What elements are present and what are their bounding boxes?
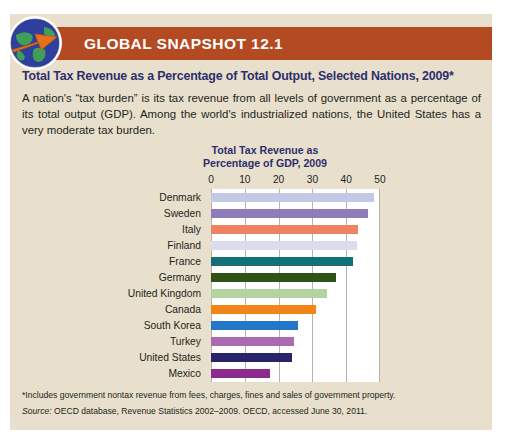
x-tick-label: 40 [341,174,352,185]
x-tick-label: 10 [239,174,250,185]
footnote-text: *Includes government nontax revenue from… [22,390,484,400]
category-label: United States [139,352,201,363]
x-tick-label: 0 [208,174,214,185]
x-tick-label: 20 [273,174,284,185]
category-label: South Korea [144,320,201,331]
bar [211,273,336,282]
snapshot-description: A nation's “tax burden” is its tax reven… [22,90,481,139]
globe-arrow-icon [4,13,66,73]
bar [211,193,374,202]
x-tick-label: 30 [307,174,318,185]
bar [211,305,316,314]
bar [211,289,327,298]
category-label: Denmark [159,192,201,203]
snapshot-header-title: GLOBAL SNAPSHOT 12.1 [84,35,283,53]
source-detail: OECD database, Revenue Statistics 2002–2… [52,406,368,416]
source-text: Source: OECD database, Revenue Statistic… [22,406,484,416]
bar [211,337,294,346]
bar [211,241,357,250]
category-label: Finland [167,240,201,251]
source-label: Source: [22,406,52,416]
category-label: Italy [182,224,201,235]
gridline [379,189,380,382]
gridline [312,189,313,382]
chart-title: Total Tax Revenue as Percentage of GDP, … [140,144,390,170]
category-labels: DenmarkSwedenItalyFinlandFranceGermanyUn… [30,189,206,382]
bar [211,209,368,218]
page-title: Total Tax Revenue as a Percentage of Tot… [22,69,484,83]
bar [211,369,270,378]
chart-title-line-1: Total Tax Revenue as [140,144,390,157]
chart-title-line-2: Percentage of GDP, 2009 [140,157,390,170]
gridline [346,189,347,382]
bar [211,225,358,234]
global-snapshot-panel: GLOBAL SNAPSHOT 12.1 Total Tax Revenue a… [10,14,492,430]
bar [211,321,298,330]
bar [211,257,353,266]
category-label: United Kingdom [128,288,201,299]
snapshot-header-band: GLOBAL SNAPSHOT 12.1 [55,27,492,60]
category-label: Canada [165,304,201,315]
category-label: Turkey [170,336,201,347]
tax-revenue-bar-chart: Total Tax Revenue as Percentage of GDP, … [10,144,492,384]
x-tick-label: 50 [374,174,385,185]
category-label: Germany [159,272,201,283]
plot-area [211,189,380,382]
category-label: Sweden [164,208,201,219]
category-label: France [169,256,201,267]
bar [211,353,292,362]
category-label: Mexico [168,368,201,379]
x-axis-tick-labels: 01020304050 [10,174,492,188]
